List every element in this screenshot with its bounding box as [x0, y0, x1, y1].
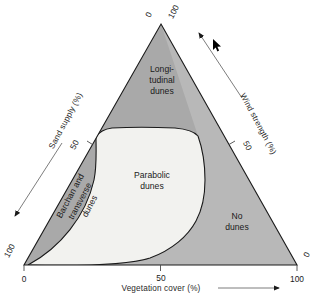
region-label-longitudinal-line3: dunes: [150, 86, 173, 96]
ternary-fields-group: [24, 24, 297, 265]
axis-left-mid-label: 50: [68, 138, 81, 151]
corner-bottom-right-rotated-label: 0: [301, 250, 312, 259]
axis-left-title: Sand supply (%): [47, 91, 84, 150]
region-label-longitudinal: Longi- tudinal dunes: [149, 64, 174, 96]
corner-apex-right-label: 100: [166, 3, 182, 20]
corner-apex-left-label: 0: [143, 10, 154, 19]
ternary-diagram-figure: 0 100 100 0 0 100 50 50 50 Sand supply (…: [0, 0, 321, 299]
wind-strength-leader-line: [199, 33, 242, 98]
axis-bottom-mid-label: 50: [156, 273, 166, 283]
region-label-parabolic-line2: dunes: [140, 181, 163, 191]
region-label-no-dunes-line1: No: [232, 211, 243, 221]
region-label-parabolic-line1: Parabolic: [134, 170, 171, 180]
region-label-longitudinal-line2: tudinal: [149, 75, 174, 85]
region-label-no-dunes-line2: dunes: [225, 222, 248, 232]
tick-right-50: [229, 141, 235, 145]
ternary-diagram-svg: 0 100 100 0 0 100 50 50 50 Sand supply (…: [0, 0, 321, 299]
region-label-longitudinal-line1: Longi-: [150, 64, 174, 74]
axis-right-mid-label: 50: [241, 139, 254, 152]
corner-bottom-right-label: 100: [290, 274, 304, 284]
axis-bottom-title: Vegetation cover (%): [121, 284, 200, 293]
sand-supply-leader-line: [15, 143, 62, 216]
corner-bottom-left-rotated-label: 100: [2, 242, 18, 259]
tick-left-50: [87, 141, 93, 145]
corner-bottom-left-label: 0: [22, 274, 27, 284]
